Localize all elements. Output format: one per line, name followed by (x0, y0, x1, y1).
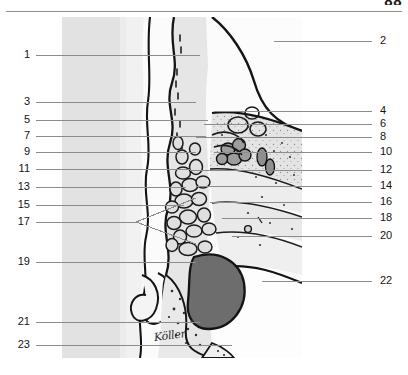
label-14[interactable]: 14 (380, 180, 406, 191)
label-16[interactable]: 16 (380, 196, 406, 207)
label-20[interactable]: 20 (380, 230, 406, 241)
label-7[interactable]: 7 (4, 130, 30, 141)
anatomy-illustration (62, 17, 302, 358)
label-3[interactable]: 3 (4, 96, 30, 107)
running-head-rule (6, 11, 402, 12)
page-number: 88 (384, 0, 402, 5)
label-6[interactable]: 6 (380, 118, 406, 129)
label-23[interactable]: 23 (4, 339, 30, 350)
label-5[interactable]: 5 (4, 114, 30, 125)
label-13[interactable]: 13 (4, 181, 30, 192)
label-15[interactable]: 15 (4, 199, 30, 210)
label-11[interactable]: 11 (4, 163, 30, 174)
label-18[interactable]: 18 (380, 212, 406, 223)
label-8[interactable]: 8 (380, 131, 406, 142)
label-19[interactable]: 19 (4, 256, 30, 267)
label-21[interactable]: 21 (4, 316, 30, 327)
label-10[interactable]: 10 (380, 146, 406, 157)
label-1[interactable]: 1 (4, 49, 30, 60)
label-17[interactable]: 17 (4, 216, 30, 227)
label-9[interactable]: 9 (4, 146, 30, 157)
label-12[interactable]: 12 (380, 164, 406, 175)
label-22[interactable]: 22 (380, 275, 406, 286)
label-2[interactable]: 2 (380, 35, 406, 46)
anatomy-figure: Köller (62, 17, 302, 358)
textbook-page: 88 (0, 0, 408, 375)
label-4[interactable]: 4 (380, 105, 406, 116)
